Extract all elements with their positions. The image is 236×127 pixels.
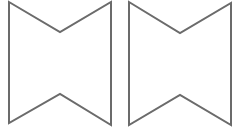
left-notched-shape [9,2,111,125]
diagram-canvas [0,0,236,127]
right-notched-shape [129,2,231,125]
